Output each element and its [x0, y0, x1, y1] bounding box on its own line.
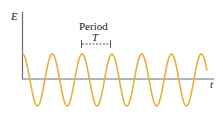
wave-curve: [23, 54, 208, 106]
y-axis-label: E: [10, 10, 18, 22]
period-symbol: T: [92, 31, 99, 43]
x-axis-label: t: [210, 78, 214, 90]
wave-diagram: E t Period T: [0, 0, 223, 114]
